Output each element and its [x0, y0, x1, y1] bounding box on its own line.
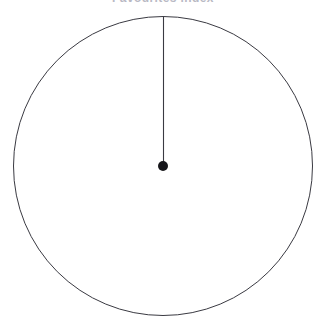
figure-canvas: Favourites index — [0, 0, 326, 332]
center-point-dot — [158, 161, 168, 171]
circle-diagram — [0, 0, 326, 332]
